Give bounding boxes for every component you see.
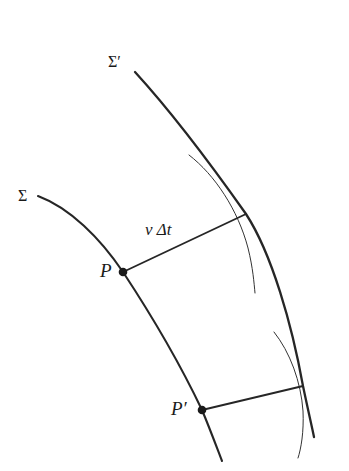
v-delta-t-label: v Δt [145, 221, 172, 238]
sigma-label: Σ [18, 188, 27, 204]
point-p-prime-label: P′ [171, 399, 187, 418]
figure-canvas: Σ′ Σ v Δt P P′ [0, 0, 349, 471]
point-p-prime-marker [198, 406, 207, 415]
point-p-marker [119, 268, 128, 277]
sigma-prime-label: Σ′ [108, 54, 121, 70]
point-p-label: P [100, 261, 112, 280]
